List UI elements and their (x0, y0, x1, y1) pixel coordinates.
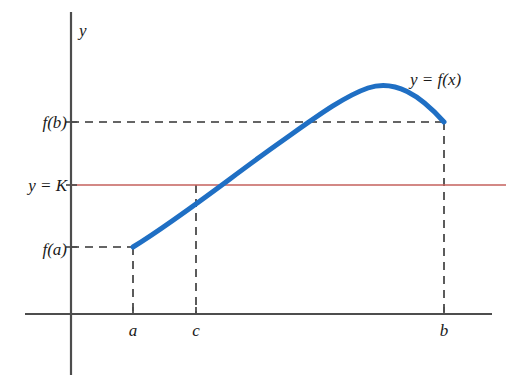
curve-function-label: y = f(x) (408, 70, 461, 89)
x-tick-label-b: b (440, 321, 449, 340)
intermediate-value-theorem-figure: y y = f(x) y = K f(b) f(a) a c b (0, 0, 520, 380)
y-axis-label: y (77, 21, 87, 40)
x-tick-label-a: a (129, 321, 138, 340)
f-of-a-label: f(a) (42, 240, 67, 259)
f-of-b-label: f(b) (42, 113, 67, 132)
x-tick-label-c: c (192, 321, 200, 340)
level-value-label: y = K (26, 176, 69, 195)
figure-container: y y = f(x) y = K f(b) f(a) a c b (0, 0, 520, 380)
